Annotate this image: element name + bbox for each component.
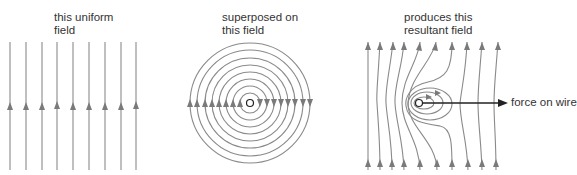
arrow-right-icon [498,99,508,107]
force-on-wire-label: force on wire [511,96,577,108]
resultant-field-diagram [365,42,508,170]
circular-field-diagram [187,43,313,163]
arrow-down-icon [257,99,313,107]
arrow-up-icon [187,99,243,107]
arrow-up-icon [7,101,139,110]
resultant-field-lines [368,42,498,170]
wire-icon [247,100,254,107]
uniform-field-diagram [7,42,139,170]
wire-icon [416,100,423,107]
